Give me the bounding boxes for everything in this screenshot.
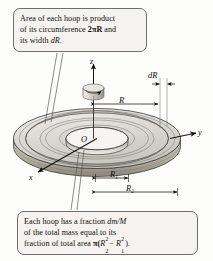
callout-hoop-area: Area of each hoop is product of its circ… [13,8,147,52]
axis-label-x: x [29,173,33,182]
callout-bottom-line2: of the total mass equal to its [24,227,192,238]
callout-top-line2-a: of its circumference [20,25,88,34]
axis-label-z: z [90,57,93,66]
callout-top-line3: its width dR. [20,35,141,46]
callout-hoop-mass-fraction: Each hoop has a fraction dm/M of the tot… [17,211,198,255]
callout-top-line2-b: and [102,25,116,34]
callout-bottom-line1-a: Each hoop has a fraction [24,217,107,226]
dimension-label-dR: dR [148,71,157,80]
area-expression-close: ). [125,239,130,248]
origin-label: O [81,135,87,144]
callout-bottom-line1: Each hoop has a fraction dm/M [24,216,192,227]
figure-container: z y x O R dR R1 R2 Area of each hoop is … [0,0,213,261]
dimension-label-R1: R1 [110,170,118,179]
callout-bottom-line3: fraction of total area π(R222− R212). [24,238,192,249]
dimension-R2 [96,188,178,196]
dimension-label-R: R [119,95,124,105]
r2-subscript: 2 [131,188,134,194]
mass-fraction-expression: dm/M [107,217,126,226]
axis-label-y: y [198,128,202,137]
r1-subscript: 1 [115,174,118,180]
dimension-label-R2: R2 [126,184,134,193]
callout-bottom-line3-a: fraction of total area [24,239,93,248]
callout-top-line1: Area of each hoop is product [20,13,141,24]
width-expression: dR [51,36,60,45]
area-r2-indices: 222 [105,239,109,248]
callout-top-line3-a: its width [20,36,51,45]
callout-top-line2: of its circumference 2πR and [20,24,141,35]
area-r1-indices: 212 [121,239,125,248]
circumference-expression: 2πR [88,25,102,34]
callout-top-line3-c: . [60,36,62,45]
